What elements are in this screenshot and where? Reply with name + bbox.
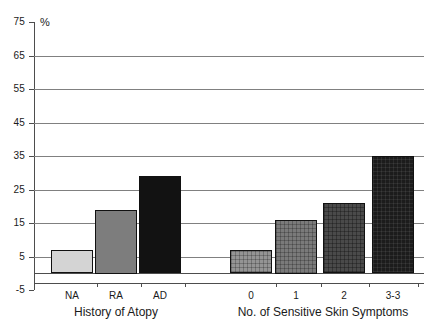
bar-1 bbox=[275, 220, 317, 274]
y-tick-label: 35 bbox=[0, 151, 25, 161]
y-tick-label: 5 bbox=[0, 252, 25, 262]
x-tick-mark bbox=[418, 283, 419, 287]
x-tick-label: 2 bbox=[319, 290, 369, 301]
bar-2 bbox=[323, 203, 365, 273]
gridline bbox=[34, 56, 424, 57]
x-tick-label: 1 bbox=[271, 290, 321, 301]
gridline bbox=[34, 156, 424, 157]
gridline bbox=[34, 190, 424, 191]
y-tick-label: 75 bbox=[0, 17, 25, 27]
x-axis-line bbox=[34, 283, 424, 284]
y-tick-label: 55 bbox=[0, 84, 25, 94]
bar-na bbox=[51, 250, 93, 273]
y-axis-unit-label: % bbox=[40, 17, 50, 28]
axis-group-title: No. of Sensitive Skin Symptoms bbox=[213, 306, 433, 319]
bar-0 bbox=[230, 250, 272, 273]
y-tick-label: 15 bbox=[0, 218, 25, 228]
x-tick-mark bbox=[185, 283, 186, 287]
x-tick-mark bbox=[276, 283, 277, 287]
y-tick-mark bbox=[29, 190, 34, 191]
gridline bbox=[34, 123, 424, 124]
bar-chart: % 756555453525155-5 NARAADHistory of Ato… bbox=[0, 0, 435, 330]
x-tick-mark bbox=[321, 283, 322, 287]
gridline bbox=[34, 89, 424, 90]
x-tick-mark bbox=[97, 283, 98, 287]
y-tick-mark bbox=[29, 257, 34, 258]
bar-ra bbox=[95, 210, 137, 274]
x-tick-label: 0 bbox=[226, 290, 276, 301]
x-tick-label: RA bbox=[91, 290, 141, 301]
bar-ad bbox=[139, 176, 181, 273]
y-tick-mark bbox=[29, 223, 34, 224]
y-tick-mark bbox=[29, 22, 34, 23]
x-tick-mark bbox=[369, 283, 370, 287]
zero-baseline bbox=[34, 273, 424, 274]
y-tick-mark bbox=[29, 290, 34, 291]
x-tick-label: 3-3 bbox=[368, 290, 418, 301]
axis-group-title: History of Atopy bbox=[6, 306, 226, 319]
gridline bbox=[34, 223, 424, 224]
y-tick-label: -5 bbox=[0, 285, 25, 295]
x-tick-mark bbox=[34, 283, 35, 287]
y-tick-label: 45 bbox=[0, 118, 25, 128]
x-tick-label: AD bbox=[135, 290, 185, 301]
bar-3-3 bbox=[372, 156, 414, 273]
y-tick-label: 25 bbox=[0, 185, 25, 195]
y-tick-mark bbox=[29, 89, 34, 90]
y-tick-mark bbox=[29, 56, 34, 57]
x-tick-label: NA bbox=[47, 290, 97, 301]
y-tick-label: 65 bbox=[0, 51, 25, 61]
x-tick-mark bbox=[141, 283, 142, 287]
y-tick-mark bbox=[29, 156, 34, 157]
y-tick-mark bbox=[29, 123, 34, 124]
